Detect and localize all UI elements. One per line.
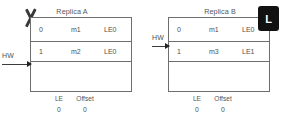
table-row: 1 m2 LE0 (31, 42, 131, 62)
meta-offset-label: Offset (206, 94, 240, 104)
replica-a-group: Replica A 0 m1 LE0 1 m2 LE0 HW (0, 0, 141, 121)
cell-message: m3 (209, 48, 219, 55)
meta-offset: Offset 0 (206, 94, 240, 116)
cell-offset: 1 (177, 48, 181, 55)
table-row-empty (31, 62, 131, 91)
meta-offset-value: 0 (68, 104, 102, 116)
hw-arrow-head-icon (27, 61, 32, 67)
replica-log-diagram: Replica A 0 m1 LE0 1 m2 LE0 HW (0, 0, 281, 121)
hw-label: HW (152, 34, 164, 41)
meta-offset-value: 0 (206, 104, 240, 116)
table-row: 0 m1 LE0 (169, 18, 269, 42)
table-row: 0 m1 LE0 (31, 18, 131, 42)
cell-offset: 1 (39, 48, 43, 55)
cell-offset: 0 (39, 26, 43, 33)
cell-leader-epoch: LE1 (242, 48, 254, 55)
cell-message: m1 (71, 26, 81, 33)
cell-message: m2 (71, 48, 81, 55)
cell-offset: 0 (177, 26, 181, 33)
replica-a-log-table: 0 m1 LE0 1 m2 LE0 (30, 17, 132, 92)
table-row: 1 m3 LE1 (169, 42, 269, 62)
meta-offset-label: Offset (68, 94, 102, 104)
cell-message: m1 (209, 26, 219, 33)
replica-a-meta: LE 0 Offset 0 (30, 94, 132, 120)
table-row-empty (169, 62, 269, 91)
cell-leader-epoch: LE0 (242, 26, 254, 33)
hw-label: HW (2, 52, 14, 59)
replica-b-meta: LE 0 Offset 0 (168, 94, 270, 120)
meta-offset: Offset 0 (68, 94, 102, 116)
cell-leader-epoch: LE0 (104, 26, 116, 33)
replica-b-group: Replica B 0 m1 LE0 1 m3 LE1 L HW (140, 0, 281, 121)
hw-arrow-head-icon (165, 43, 170, 49)
cell-leader-epoch: LE0 (104, 48, 116, 55)
leader-role-badge: L (258, 6, 279, 31)
replica-b-log-table: 0 m1 LE0 1 m3 LE1 (168, 17, 270, 92)
